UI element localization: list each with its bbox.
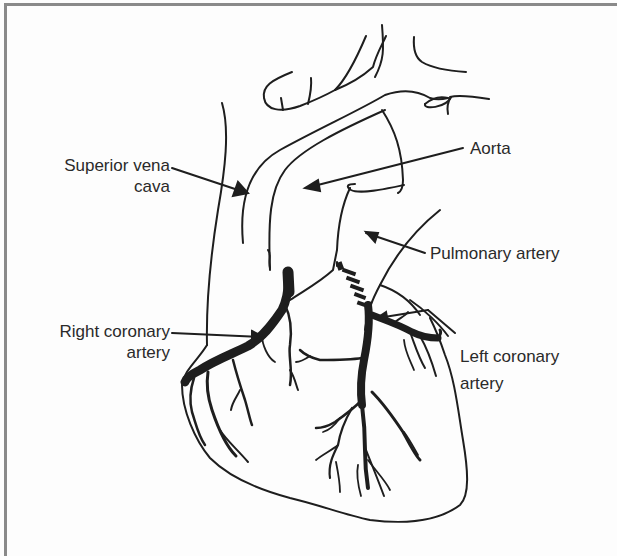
pulmonary-right-line [365,210,440,330]
hatched-left-main [336,261,368,307]
label-left-coronary-artery: Left coronary artery [460,343,559,397]
aorta-right-contour [382,110,403,193]
label-pulmonary-artery-line1: Pulmonary artery [430,243,559,264]
right-coronary-artery-vessels [185,250,298,462]
label-left-coronary-artery-line2: artery [460,370,559,397]
label-right-coronary-artery-line2: artery [30,342,170,363]
label-aorta-line1: Aorta [470,138,511,159]
label-superior-vena-cava: Superior vena cava [40,155,170,197]
aortic-arch [242,91,489,243]
label-right-coronary-artery-line1: Right coronary [30,321,170,342]
label-superior-vena-cava-line1: Superior vena [40,155,170,176]
aorta-inner-line [269,110,385,270]
label-aorta: Aorta [470,138,511,159]
heart-diagram-figure: Superior vena cava Aorta Pulmonary arter… [0,0,617,556]
pulmonary-artery-contour [348,184,404,192]
label-left-coronary-artery-line1: Left coronary [460,343,559,370]
label-pulmonary-artery: Pulmonary artery [430,243,559,264]
heart-outline [182,318,467,522]
label-right-coronary-artery: Right coronary artery [30,321,170,363]
heart-illustration [0,0,617,556]
superior-vena-cava-line [207,103,226,345]
left-coronary-artery-vessels [296,305,441,496]
label-superior-vena-cava-line2: cava [40,176,170,197]
